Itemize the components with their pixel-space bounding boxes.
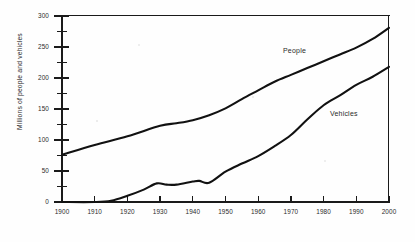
series-curves: [0, 0, 415, 242]
series-label-vehicles: Vehicles: [330, 110, 358, 117]
series-line-people: [62, 28, 389, 155]
chart-figure: Millions of people and vehicles 05010015…: [0, 0, 415, 242]
series-label-people: People: [283, 47, 306, 54]
series-line-vehicles: [62, 67, 389, 202]
